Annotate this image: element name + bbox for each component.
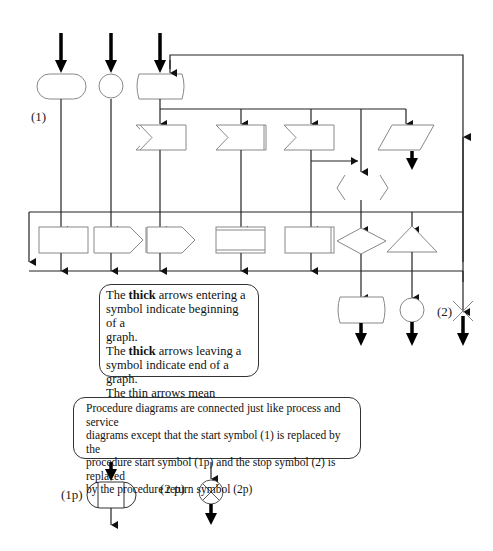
stop-symbol-label: (2) (437, 304, 452, 320)
output-symbol (94, 227, 143, 253)
priority-output-symbol (147, 227, 195, 253)
spontaneous-transition-symbol (337, 175, 388, 200)
decision-symbol (337, 228, 386, 254)
start-symbol (37, 74, 86, 99)
legend-note-procedure: Procedure diagrams are connected just li… (73, 397, 361, 459)
start-symbol-label: (1) (31, 109, 46, 125)
task-symbol (39, 227, 88, 253)
connector-symbol (99, 74, 123, 98)
input-symbol-plain (284, 125, 334, 150)
procedure-start-label: (1p) (61, 487, 83, 503)
connector-symbol-exit (400, 298, 424, 322)
state-symbol (137, 74, 184, 99)
sdl-notation-diagram: (1) (2) (1p) (2 p) The thick arrows ente… (0, 0, 493, 551)
thick-entry-arrows (55, 33, 166, 73)
save-symbol (378, 125, 434, 150)
create-symbol (387, 226, 437, 252)
macro-call-symbol (285, 227, 334, 253)
state-symbol-exit (338, 297, 385, 323)
procedure-call-symbol (216, 227, 265, 253)
legend-note-arrows: The thick arrows entering a symbol indic… (99, 284, 259, 377)
input-symbol (216, 125, 266, 150)
